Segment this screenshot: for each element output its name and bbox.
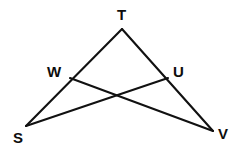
vertex-label-v: V [218,126,228,141]
vertex-label-s: S [13,130,23,145]
segment-t-s [26,29,122,126]
vertex-label-u: U [173,64,184,79]
vertex-label-t: T [117,7,126,22]
vertex-label-w: W [47,64,61,79]
segment-t-v [122,29,213,131]
segment-u-s [26,78,168,126]
geometry-figure: T W U S V [0,0,234,151]
